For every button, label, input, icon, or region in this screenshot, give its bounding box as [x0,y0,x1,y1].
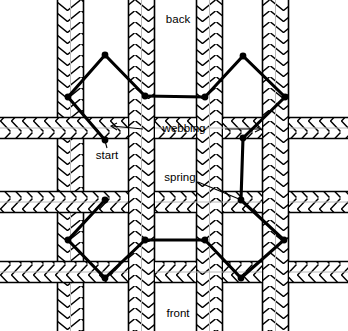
spring-node [102,275,109,282]
weave-canvas: back webbing start spring front [0,0,348,331]
spring-right-vertical [241,138,243,200]
spring-node [202,237,209,244]
horizontal-strap-h4 [0,261,348,283]
spring-node [102,52,109,59]
weave-diagram: back webbing start spring front [0,0,348,331]
spring-node [65,237,72,244]
spring-top-connector [145,96,205,97]
label-front: front [166,307,190,319]
spring-node [102,197,109,204]
spring-node [142,237,149,244]
spring-node [142,93,149,100]
spring-node [282,94,289,101]
spring-node [240,135,247,142]
spring-node [238,197,245,204]
spring-node [281,237,288,244]
label-spring: spring [164,171,195,183]
label-start: start [96,149,119,161]
vertical-strap-v4 [262,0,289,331]
spring-node [238,275,245,282]
horizontal-strap-h3 [0,191,348,213]
vertical-strap-v2 [128,0,155,331]
label-back: back [166,13,191,25]
spring-node [65,94,72,101]
spring-node [240,53,247,60]
vertical-strap-v3 [196,0,223,331]
spring-node [202,94,209,101]
label-webbing: webbing [162,122,206,134]
